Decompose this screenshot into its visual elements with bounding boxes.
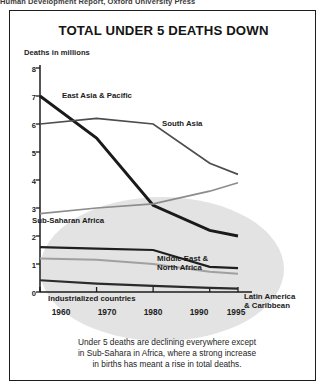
y-tick-5: 5 [24, 149, 36, 158]
x-tick-1960: 1960 [44, 307, 78, 317]
series-label-middle-east-line2: North Africa [157, 263, 202, 272]
series-label-latin-america-caribbean: Latin America & Caribbean [244, 292, 295, 310]
chart-canvas [10, 11, 317, 382]
caption-line-3: in births has meant a rise in total deat… [36, 359, 298, 370]
y-tick-0: 0 [24, 289, 36, 298]
chart-caption: Under 5 deaths are declining everywhere … [36, 337, 298, 371]
caption-line-2: in Sub-Sahara in Africa, where a strong … [36, 348, 298, 359]
series-label-latin-america-line2: & Caribbean [244, 301, 290, 310]
series-label-east-asia-pacific: East Asia & Pacific [62, 91, 132, 100]
series-label-middle-east-north-africa: Middle East & North Africa [157, 254, 208, 272]
source-page-header: Human Development Report, Oxford Univers… [0, 0, 333, 8]
series-label-industrialized-countries: Industrialized countries [48, 294, 136, 303]
caption-line-1: Under 5 deaths are declining everywhere … [36, 337, 298, 348]
y-tick-1: 1 [24, 261, 36, 270]
plot-area: 8 7 6 5 4 3 2 1 0 1960 1970 1980 1990 19… [10, 11, 317, 382]
series-label-middle-east-line1: Middle East & [157, 254, 208, 263]
series-label-south-asia: South Asia [162, 119, 202, 128]
x-tick-1980: 1980 [136, 307, 170, 317]
y-tick-4: 4 [24, 177, 36, 186]
y-tick-2: 2 [24, 233, 36, 242]
figure-root: Human Development Report, Oxford Univers… [0, 0, 333, 387]
y-tick-6: 6 [24, 121, 36, 130]
x-tick-1970: 1970 [90, 307, 124, 317]
y-tick-3: 3 [24, 205, 36, 214]
y-tick-7: 7 [24, 93, 36, 102]
x-tick-1990: 1990 [182, 307, 216, 317]
series-label-sub-saharan-africa: Sub-Saharan Africa [32, 216, 104, 225]
series-label-latin-america-line1: Latin America [244, 292, 295, 301]
figure-frame: TOTAL UNDER 5 DEATHS DOWN Deaths in mill… [9, 10, 316, 381]
y-tick-8: 8 [24, 65, 36, 74]
